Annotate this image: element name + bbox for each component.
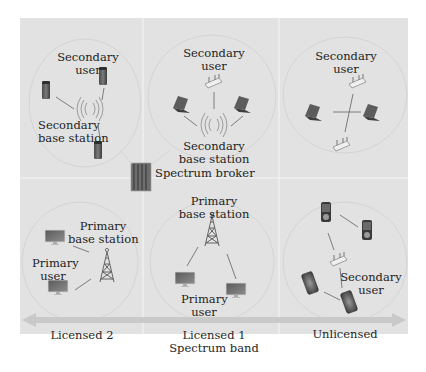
primary-user-label: Primaryuser: [181, 293, 227, 318]
secondary-base-station-label: Secondarybase station: [176, 140, 252, 165]
secondary-user-label: Secondaryuser: [52, 51, 124, 76]
secondary-user-label: Secondaryuser: [310, 50, 382, 75]
band-label-unlicensed: Unlicensed: [305, 328, 385, 341]
secondary-user-label: Secondaryuser: [176, 47, 252, 72]
spectrum-broker-label: Spectrum broker: [155, 167, 255, 180]
secondary-user-label: Secondaryuser: [340, 271, 402, 296]
cognitive-radio-diagram: Secondaryuser Secondarybase station Seco…: [0, 0, 426, 372]
primary-base-station-label: Primarybase station: [68, 220, 138, 245]
primary-user-label: Primaryuser: [32, 257, 74, 282]
media-player-icon: [362, 220, 372, 240]
server-icon: [42, 81, 50, 99]
secondary-base-station-label: Secondarybase station: [38, 119, 109, 144]
server-rack-icon: [131, 163, 151, 191]
media-player-icon: [321, 202, 331, 222]
band-label-licensed-2: Licensed 2: [42, 329, 122, 342]
primary-base-station-label: Primarybase station: [178, 195, 250, 220]
band-label-licensed-1: Licensed 1Spectrum band: [168, 329, 260, 354]
